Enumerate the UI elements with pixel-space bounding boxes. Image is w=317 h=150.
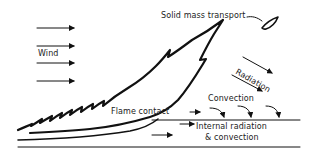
convection-arrow-icon — [238, 106, 251, 117]
internal-convection-label: & convection — [205, 134, 259, 142]
wind-label: Wind — [38, 50, 59, 58]
flame-upper-edge — [18, 20, 223, 133]
convection-arrow-icon — [266, 106, 279, 117]
firebrand-icon — [262, 17, 278, 29]
flame-spread-diagram — [0, 0, 317, 150]
convection-arrow-icon — [210, 108, 224, 117]
solid-mass-leader-line — [247, 17, 262, 21]
solid-mass-transport-label: Solid mass transport — [161, 12, 246, 20]
flame-contact-label: Flame contact — [111, 108, 169, 116]
internal-radiation-label: Internal radiation — [196, 123, 267, 131]
radiation-arrow-icon — [243, 57, 272, 73]
convection-label: Convection — [208, 95, 254, 103]
